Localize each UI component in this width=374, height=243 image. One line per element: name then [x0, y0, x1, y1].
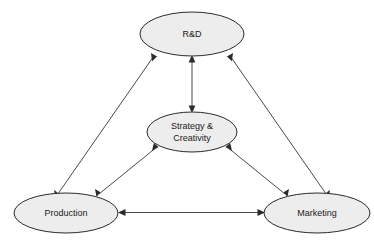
node-production-label: Production: [44, 208, 87, 218]
edge-rnd-production-line: [58, 57, 154, 195]
diagram-svg: R&D Strategy & Creativity Production Mar…: [0, 0, 374, 243]
edge-rnd-production-arrowhead-top: [151, 53, 157, 61]
edge-rnd-strategy[interactable]: [189, 55, 196, 113]
edge-marketing-strategy[interactable]: [225, 143, 289, 197]
node-production[interactable]: Production: [14, 193, 118, 233]
edge-production-strategy-arrowhead-bottom: [95, 189, 100, 197]
node-marketing[interactable]: Marketing: [264, 193, 370, 233]
node-rnd[interactable]: R&D: [140, 12, 244, 56]
edge-rnd-marketing[interactable]: [227, 53, 330, 198]
edge-marketing-strategy-line: [229, 149, 285, 195]
node-rnd-label: R&D: [182, 29, 202, 39]
node-strategy-label-line1: Strategy &: [171, 121, 213, 131]
node-strategy-label-line2: Creativity: [173, 133, 211, 143]
node-strategy[interactable]: Strategy & Creativity: [147, 112, 237, 152]
diagram-canvas: R&D Strategy & Creativity Production Mar…: [0, 0, 374, 243]
edge-rnd-marketing-line: [231, 57, 327, 195]
edge-production-marketing-arrowhead-left: [118, 209, 126, 216]
node-marketing-label: Marketing: [297, 208, 337, 218]
node-group: R&D Strategy & Creativity Production Mar…: [14, 12, 370, 233]
edge-production-strategy[interactable]: [95, 143, 159, 197]
edge-rnd-production[interactable]: [54, 53, 157, 198]
edge-production-marketing[interactable]: [118, 209, 265, 216]
edge-production-strategy-line: [99, 149, 155, 195]
edge-rnd-marketing-arrowhead-top: [227, 53, 233, 61]
